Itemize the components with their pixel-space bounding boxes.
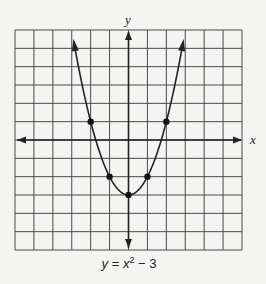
axes: [17, 31, 242, 248]
data-point: [144, 173, 150, 179]
parabola-graph: x y y = x2 − 3: [0, 0, 266, 284]
y-axis-up-arrow-icon: [125, 31, 132, 40]
y-axis-down-arrow-icon: [125, 239, 132, 248]
y-axis-label: y: [123, 12, 131, 27]
data-point: [125, 192, 131, 198]
curve-left-arrow-icon: [72, 39, 79, 51]
x-axis-label: x: [249, 132, 256, 147]
equation-caption: y = x2 − 3: [101, 255, 157, 271]
x-axis-right-arrow-icon: [233, 137, 242, 144]
curve-right-arrow-icon: [178, 39, 185, 51]
data-point: [87, 118, 93, 124]
x-axis-left-arrow-icon: [17, 137, 26, 144]
data-point: [106, 173, 112, 179]
data-point: [163, 118, 169, 124]
